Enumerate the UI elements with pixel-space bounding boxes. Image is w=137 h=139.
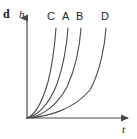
curve-label-c: C (47, 11, 55, 22)
curves-group (27, 28, 106, 118)
curve-c (27, 28, 56, 118)
curve-label-a: A (62, 11, 70, 22)
curve-label-d: D (101, 11, 109, 22)
axes-group (27, 18, 128, 118)
curve-label-b: B (76, 11, 84, 22)
curve-a (27, 28, 68, 118)
figure-panel: d h t CABD (0, 0, 137, 139)
